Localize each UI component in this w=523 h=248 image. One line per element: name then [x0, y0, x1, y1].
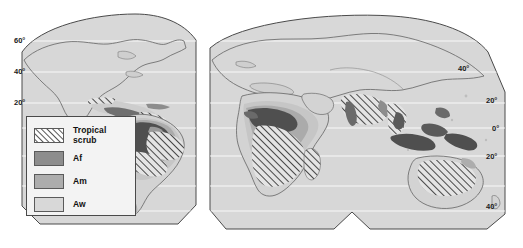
legend-label-am: Am [73, 177, 87, 186]
lat-label-left-40: 40° [14, 67, 25, 76]
lat-label-left-20: 20° [14, 98, 25, 107]
legend-label-line2: scrub [73, 135, 97, 145]
legend-label-af: Af [73, 154, 82, 163]
legend-item-af: Af [27, 147, 135, 170]
swatch-aw [34, 197, 64, 212]
island-dot [407, 149, 409, 151]
lat-label-right-20n: 20° [486, 96, 497, 105]
afroeurasia-panel [206, 15, 510, 229]
lat-label-right-40n: 40° [458, 64, 469, 73]
map-legend: Tropical scrub Af Am Aw [26, 116, 136, 216]
legend-item-tropical-scrub: Tropical scrub [27, 124, 135, 147]
island-dot [465, 95, 468, 98]
climate-map-figure: 60° 40° 20° 40° 20° 0° 20° 40° Tropical … [0, 0, 523, 248]
swatch-af [34, 151, 64, 166]
island-dot [451, 119, 453, 121]
legend-item-aw: Aw [27, 193, 135, 216]
legend-item-am: Am [27, 170, 135, 193]
lat-label-right-40s: 40° [486, 202, 497, 211]
legend-label-aw: Aw [73, 200, 86, 209]
lat-label-right-20s: 20° [486, 152, 497, 161]
swatch-am [34, 174, 64, 189]
legend-label-tropical-scrub: Tropical scrub [73, 126, 106, 144]
lat-label-left-60: 60° [14, 36, 25, 45]
swatch-tropical-scrub [34, 128, 64, 143]
island-dot [485, 139, 487, 141]
lat-label-right-0: 0° [492, 124, 499, 133]
